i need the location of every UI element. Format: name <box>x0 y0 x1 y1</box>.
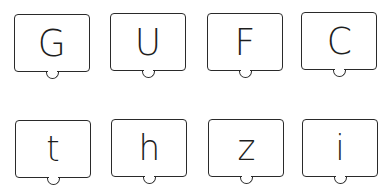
card-tab-icon <box>333 70 346 77</box>
letter-card-F[interactable]: F <box>207 13 283 71</box>
letter-card-h[interactable]: h <box>111 119 187 177</box>
letter-card-C[interactable]: C <box>301 12 377 70</box>
letter-card-t[interactable]: t <box>15 120 91 178</box>
card-letter: U <box>135 23 161 61</box>
letter-card-z[interactable]: z <box>208 119 284 177</box>
card-letter: t <box>46 131 59 167</box>
card-tab-icon <box>46 72 59 79</box>
card-tab-icon <box>240 177 253 184</box>
card-tab-icon <box>142 71 155 78</box>
card-tab-icon <box>239 71 252 78</box>
card-tab-icon <box>143 177 156 184</box>
card-letter: i <box>335 130 345 166</box>
card-letter: h <box>138 130 160 166</box>
card-letter: F <box>235 23 256 61</box>
letter-card-i[interactable]: i <box>302 119 378 177</box>
card-letter: G <box>38 24 66 62</box>
letter-card-G[interactable]: G <box>14 14 90 72</box>
letter-card-U[interactable]: U <box>110 13 186 71</box>
card-letter: z <box>237 130 255 166</box>
card-tab-icon <box>334 177 347 184</box>
card-letter: C <box>326 22 351 60</box>
card-tab-icon <box>47 178 60 185</box>
